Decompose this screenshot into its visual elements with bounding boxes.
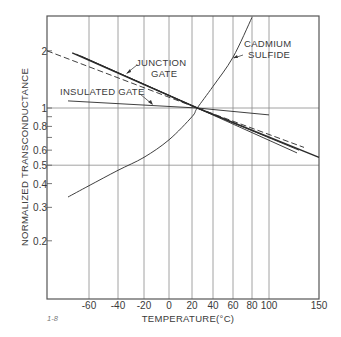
y-tick-label: 0.8 — [33, 121, 47, 132]
y-tick-label: 2 — [41, 45, 47, 56]
insulated-arrowhead-icon — [148, 100, 153, 105]
junction-arrowhead-icon — [126, 69, 131, 74]
cadmium-sulfide-label-line2: SULFIDE — [248, 50, 290, 60]
figure-number: 1-8 — [47, 314, 58, 323]
x-tick-label: -40 — [111, 300, 125, 311]
x-tick-label: 60 — [227, 300, 238, 311]
x-axis-label: TEMPERATURE(°C) — [142, 313, 235, 324]
x-tick-label: 0 — [166, 300, 172, 311]
x-tick-label: 150 — [311, 300, 328, 311]
y-tick-label: 0.4 — [33, 178, 47, 189]
x-tick-label: -20 — [137, 300, 151, 311]
x-tick-label: 20 — [186, 300, 197, 311]
x-tick-label: 80 — [246, 300, 257, 311]
series-line-junction-gate-variant-3 — [81, 56, 297, 153]
y-tick-label: 0.2 — [33, 235, 47, 246]
x-tick-label: 40 — [207, 300, 218, 311]
y-tick-label: 0.5 — [33, 160, 47, 171]
y-axis-label: NORMALIZED TRANSCONDUCTANCE — [19, 68, 30, 246]
y-minor-ticks — [47, 51, 52, 241]
y-tick-label: 0.6 — [33, 145, 47, 156]
cadmium-sulfide-label-line1: CADMIUM — [244, 39, 292, 49]
insulated-gate-label: INSULATED GATE — [60, 87, 145, 97]
y-tick-label: 1 — [41, 103, 47, 114]
junction-gate-label-line2: GATE — [151, 69, 177, 79]
x-tick-label: -60 — [82, 300, 96, 311]
junction-gate-label-line1: JUNCTION — [136, 58, 186, 68]
y-tick-label: 0.3 — [33, 202, 47, 213]
x-tick-label: 100 — [261, 300, 278, 311]
series-line-cadmium-sulfide — [68, 17, 252, 197]
